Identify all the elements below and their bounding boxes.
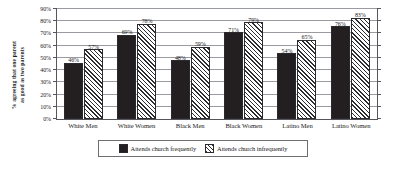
y-axis-title-line-2: as good as two parents bbox=[19, 47, 27, 103]
bar-groups: 46%57%69%78%48%59%71%79%54%65%76%83% bbox=[57, 9, 377, 119]
x-axis-category-label: Latino Men bbox=[271, 122, 325, 129]
y-axis-tick-label: 20% bbox=[40, 92, 51, 98]
y-axis-tick-right bbox=[377, 81, 381, 82]
y-axis-tick-label: 80% bbox=[40, 18, 51, 24]
y-axis-tick-label: 90% bbox=[40, 6, 51, 12]
x-axis-category-label: White Men bbox=[56, 122, 110, 129]
bar-value-label: 71% bbox=[228, 27, 239, 33]
bar-value-label: 83% bbox=[355, 12, 366, 18]
bar-chart-figure: % agreeing that one parent as good as tw… bbox=[0, 0, 405, 170]
bar-value-label: 46% bbox=[68, 57, 79, 63]
y-axis-tick-right bbox=[377, 106, 381, 107]
bar: 79% bbox=[244, 22, 263, 119]
y-axis-title-line-1: % agreeing that one parent bbox=[11, 41, 19, 109]
bar-value-label: 65% bbox=[302, 34, 313, 40]
bar: 78% bbox=[137, 24, 156, 119]
bar: 65% bbox=[297, 40, 316, 119]
bar: 71% bbox=[224, 32, 243, 119]
plot-area: 0%10%20%30%40%50%60%70%80%90% 46%57%69%7… bbox=[56, 9, 378, 120]
bar-value-label: 78% bbox=[142, 18, 153, 24]
x-axis-category-label: Black Men bbox=[163, 122, 217, 129]
y-axis-tick-label: 70% bbox=[40, 30, 51, 36]
legend-label-infrequent: Attends church infrequently bbox=[217, 145, 287, 152]
bar-value-label: 76% bbox=[335, 21, 346, 27]
bar: 54% bbox=[277, 53, 296, 119]
bar: 59% bbox=[191, 47, 210, 119]
bar-group: 48%59% bbox=[164, 9, 217, 119]
bar: 83% bbox=[351, 18, 370, 119]
bar-value-label: 54% bbox=[282, 48, 293, 54]
y-axis-tick-right bbox=[377, 57, 381, 58]
chart-legend: Attends church frequently Attends church… bbox=[98, 140, 308, 157]
y-axis-tick-right bbox=[377, 32, 381, 33]
bar-group: 69%78% bbox=[110, 9, 163, 119]
legend-label-frequent: Attends church frequently bbox=[131, 145, 196, 152]
y-axis-tick-label: 50% bbox=[40, 55, 51, 61]
bar-group: 76%83% bbox=[324, 9, 377, 119]
bar: 48% bbox=[171, 60, 190, 119]
y-axis-tick-right bbox=[377, 45, 381, 46]
y-axis-tick-right bbox=[377, 69, 381, 70]
bar: 57% bbox=[84, 49, 103, 119]
x-axis-category-label: Black Women bbox=[217, 122, 271, 129]
bar-value-label: 57% bbox=[88, 44, 99, 50]
legend-item-frequent: Attends church frequently bbox=[119, 144, 196, 153]
y-axis-tick-label: 40% bbox=[40, 67, 51, 73]
bar-value-label: 79% bbox=[248, 17, 259, 23]
legend-swatch-infrequent-icon bbox=[205, 144, 214, 153]
y-axis-tick-label: 10% bbox=[40, 104, 51, 110]
y-axis-tick-right bbox=[377, 94, 381, 95]
bar-value-label: 48% bbox=[175, 55, 186, 61]
x-axis-category-labels: White MenWhite WomenBlack MenBlack Women… bbox=[56, 122, 378, 129]
bar: 46% bbox=[64, 63, 83, 119]
y-axis-tick-right bbox=[377, 118, 381, 119]
x-axis-category-label: Latino Women bbox=[324, 122, 378, 129]
y-axis-title: % agreeing that one parent as good as tw… bbox=[6, 14, 32, 136]
y-axis-tick-label: 0% bbox=[43, 116, 51, 122]
legend-item-infrequent: Attends church infrequently bbox=[205, 144, 287, 153]
bar-group: 46%57% bbox=[57, 9, 110, 119]
y-axis-tick-label: 60% bbox=[40, 43, 51, 49]
y-axis-tick-right bbox=[377, 20, 381, 21]
y-axis-tick-right bbox=[377, 8, 381, 9]
bar-value-label: 59% bbox=[195, 41, 206, 47]
bar-group: 71%79% bbox=[217, 9, 270, 119]
y-axis-tick-label: 30% bbox=[40, 79, 51, 85]
bar: 69% bbox=[117, 35, 136, 119]
bar: 76% bbox=[331, 26, 350, 119]
legend-swatch-frequent-icon bbox=[119, 144, 128, 153]
bar-group: 54%65% bbox=[270, 9, 323, 119]
bar-value-label: 69% bbox=[122, 29, 133, 35]
x-axis-category-label: White Women bbox=[110, 122, 164, 129]
